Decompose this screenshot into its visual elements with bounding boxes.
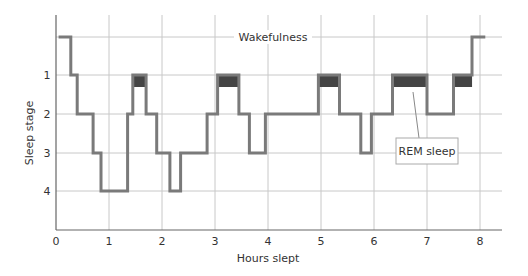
rem-block [393,75,427,87]
wakefulness-label: Wakefulness [239,31,308,44]
rem-block [318,75,339,87]
y-tick-label: 4 [44,185,51,198]
x-tick-label: 6 [371,235,378,248]
axes [56,15,502,230]
y-axis-title: Sleep stage [23,100,36,165]
rem-block [133,75,146,87]
rem-callout-pointer [413,92,419,138]
x-tick-label: 3 [212,235,219,248]
x-tick-label: 5 [318,235,325,248]
x-tick-label: 8 [477,235,484,248]
y-tick-label: 2 [44,108,51,121]
x-tick-label: 4 [265,235,272,248]
x-tick-label: 1 [106,235,113,248]
sleep-hypnogram-chart: 0123456781234 Wakefulness REM sleep Hour… [0,0,528,276]
rem-blocks [133,75,472,87]
x-tick-label: 2 [159,235,166,248]
x-tick-label: 0 [53,235,60,248]
y-tick-label: 3 [44,147,51,160]
x-tick-label: 7 [424,235,431,248]
x-axis-title: Hours slept [237,252,300,265]
rem-sleep-label: REM sleep [399,145,456,158]
y-tick-label: 1 [44,69,51,82]
rem-block [454,75,473,87]
rem-block [218,75,239,87]
grid-lines [56,15,502,230]
